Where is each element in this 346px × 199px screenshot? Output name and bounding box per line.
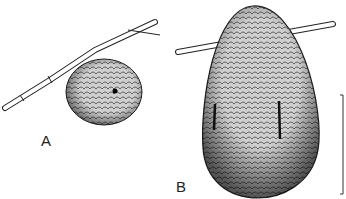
nest-b: [203, 6, 320, 198]
nest-a: [66, 59, 142, 125]
scale-bar: [340, 95, 343, 194]
panel-label-b: B: [176, 178, 186, 195]
nest-illustration: [0, 0, 346, 199]
panel-label-a: A: [41, 132, 51, 149]
figure-canvas: A B: [0, 0, 346, 199]
